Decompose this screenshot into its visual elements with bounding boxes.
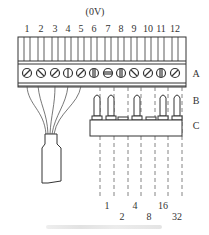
screw-icon [37,69,46,78]
terminal-number: 5 [79,23,84,34]
bit-weight: 32 [172,211,182,222]
screw-icon [23,69,32,78]
bit-weight: 16 [158,200,168,211]
terminal-block [18,37,186,87]
row-label-b: B [193,95,200,106]
screw-icon [171,69,180,78]
terminal-number: 9 [132,23,137,34]
screw-icon [130,69,139,78]
screw-icon [90,69,99,78]
jumper-pin [132,95,142,120]
bit-weight-labels: 1 4 16 2 8 32 [105,200,183,222]
screw-icon [64,69,73,78]
screw-terminals [23,69,180,78]
terminal-number: 12 [170,23,180,34]
terminal-number: 11 [156,23,166,34]
screw-icon [51,69,60,78]
screw-icon [117,69,126,78]
wiring-diagram: (0V) 1 2 3 4 5 6 7 8 9 10 11 12 [0,0,209,235]
terminal-number: 10 [143,23,153,34]
figure-caption [46,225,162,229]
jumper-pin [158,95,168,120]
bit-weight: 1 [105,200,110,211]
terminal-number: 7 [106,23,111,34]
terminal-number: 2 [39,23,44,34]
jumper-pins [92,95,182,120]
terminal-number: 6 [92,23,97,34]
voltage-label: (0V) [86,6,105,18]
jumper-pin [172,95,182,120]
terminal-number: 4 [66,23,71,34]
terminal-numbers: 1 2 3 4 5 6 7 8 9 10 11 12 [25,23,181,34]
screw-icon [157,69,166,78]
jumper-pin [106,95,116,120]
cable-plug [42,134,61,183]
row-label-a: A [192,68,200,79]
screw-icon [144,69,153,78]
bit-weight: 2 [120,211,125,222]
bit-weight: 8 [147,211,152,222]
jumper-pin [92,95,102,120]
terminal-number: 8 [119,23,124,34]
jumper-base [90,120,182,136]
terminal-number: 1 [25,23,30,34]
screw-icon [104,69,113,78]
row-label-c: C [193,120,200,131]
screw-icon [77,69,86,78]
cable-wires [27,86,81,134]
terminal-number: 3 [53,23,58,34]
bit-weight: 4 [133,200,138,211]
